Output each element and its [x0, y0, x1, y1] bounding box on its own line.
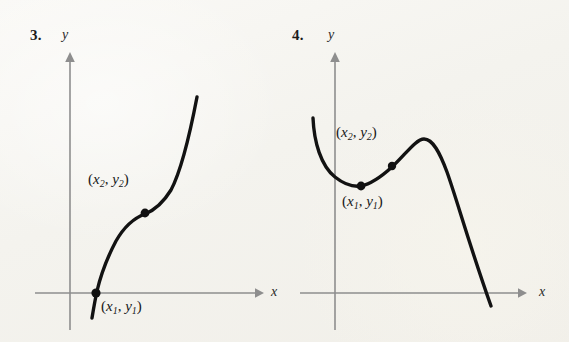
figure-4-label-x1y1: (x1, y1) [342, 194, 383, 209]
figure-4-curve [313, 118, 491, 306]
figure-3-curve [92, 97, 197, 318]
figure-3-point-x1y1 [91, 288, 100, 297]
figure-3-label-x1y1: (x1, y1) [101, 299, 142, 314]
figure-4-plot [285, 0, 569, 342]
figure-4-y-axis-arrowhead [330, 52, 340, 62]
figure-3-point-x2y2 [141, 209, 150, 218]
scanned-textbook-page: 3. y x (x2, y2) (x1, y1) 4. y x [0, 0, 569, 342]
figure-3-plot [0, 0, 285, 342]
figure-3-y-axis-arrowhead [65, 52, 75, 62]
figure-4: 4. y x (x2, y2) (x1, y1) [285, 0, 569, 342]
figure-3: 3. y x (x2, y2) (x1, y1) [0, 0, 285, 342]
figure-4-point-x1y1 [357, 182, 366, 191]
figure-3-label-x2y2: (x2, y2) [88, 172, 129, 187]
figure-4-x-axis-arrowhead [518, 288, 527, 298]
figure-4-label-x2y2: (x2, y2) [336, 125, 377, 140]
figure-4-point-x2y2 [388, 162, 396, 170]
figure-3-x-axis-arrowhead [255, 288, 264, 298]
